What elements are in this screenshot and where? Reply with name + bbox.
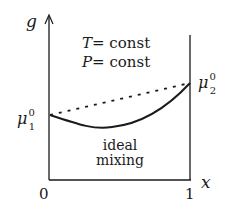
- x-axis-label: x: [201, 172, 211, 192]
- x-tick-1: 1: [185, 185, 195, 203]
- y-axis-label: g: [26, 11, 37, 31]
- mu1-label: μ01: [17, 107, 35, 132]
- linear-reference-line: [50, 83, 190, 115]
- condition-pressure: P= const: [81, 53, 150, 71]
- ideal-mixing-diagram: g x 0 1 T= const P= const μ01 μ02 ideal …: [0, 0, 229, 212]
- curve-label-ideal: ideal: [103, 137, 138, 153]
- x-tick-0: 0: [39, 185, 49, 203]
- ideal-mixing-curve: [50, 83, 190, 128]
- curve-label-mixing: mixing: [96, 152, 144, 168]
- mu2-label: μ02: [198, 71, 216, 96]
- condition-temperature: T= const: [82, 34, 150, 52]
